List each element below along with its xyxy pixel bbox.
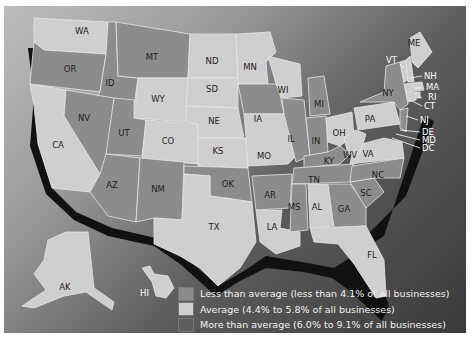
label-VT: VT xyxy=(386,55,398,65)
label-AK: AK xyxy=(59,282,71,292)
label-OK: OK xyxy=(222,179,235,189)
state-WA[interactable] xyxy=(34,18,108,54)
map-frame: WA OR CA ID NV MT WY UT CO AZ NM ND SD N… xyxy=(4,6,466,333)
label-NH: NH xyxy=(424,71,437,81)
label-VA: VA xyxy=(362,149,373,159)
label-GA: GA xyxy=(338,204,351,214)
legend-label-average: Average (4.4% to 5.8% of all businesses) xyxy=(200,304,395,315)
legend-label-less: Less than average (less than 4.1% of all… xyxy=(200,288,449,299)
label-WA: WA xyxy=(75,26,89,36)
label-MA: MA xyxy=(426,82,439,92)
state-NJ[interactable] xyxy=(400,108,408,132)
label-NM: NM xyxy=(151,184,165,194)
state-TN[interactable] xyxy=(292,164,354,184)
label-NC: NC xyxy=(372,170,384,180)
legend-item-more: More than average (6.0% to 9.1% of all b… xyxy=(178,317,449,333)
legend-swatch-average xyxy=(178,302,194,316)
label-ME: ME xyxy=(408,38,421,48)
label-NV: NV xyxy=(78,113,90,123)
legend-item-average: Average (4.4% to 5.8% of all businesses) xyxy=(178,302,449,318)
label-WI: WI xyxy=(278,85,289,95)
legend-swatch-less xyxy=(178,287,194,301)
label-ND: ND xyxy=(206,56,219,66)
label-SC: SC xyxy=(360,188,371,198)
label-MT: MT xyxy=(146,52,159,62)
label-OH: OH xyxy=(332,128,345,138)
label-FL: FL xyxy=(367,250,377,260)
label-PA: PA xyxy=(365,114,376,124)
label-IA: IA xyxy=(254,114,263,124)
label-MS: MS xyxy=(288,202,301,212)
label-CA: CA xyxy=(52,140,64,150)
label-WV: WV xyxy=(343,150,357,160)
label-TX: TX xyxy=(207,222,219,232)
legend-label-more: More than average (6.0% to 9.1% of all b… xyxy=(200,319,446,330)
label-MO: MO xyxy=(257,151,271,161)
label-DC: DC xyxy=(422,143,435,153)
label-KY: KY xyxy=(324,156,335,166)
state-PA[interactable] xyxy=(354,102,400,130)
label-IN: IN xyxy=(312,136,321,146)
label-AZ: AZ xyxy=(106,180,118,190)
label-TN: TN xyxy=(307,175,320,185)
label-CO: CO xyxy=(162,136,175,146)
legend-item-less: Less than average (less than 4.1% of all… xyxy=(178,286,449,302)
label-CT: CT xyxy=(424,101,436,111)
label-NJ: NJ xyxy=(420,115,429,125)
label-WY: WY xyxy=(151,94,165,104)
legend-swatch-more xyxy=(178,318,194,332)
label-MI: MI xyxy=(314,99,324,109)
label-SD: SD xyxy=(206,84,218,94)
label-KS: KS xyxy=(213,146,224,156)
label-IL: IL xyxy=(287,134,295,144)
label-OR: OR xyxy=(64,64,77,74)
label-UT: UT xyxy=(118,128,130,138)
state-NY[interactable] xyxy=(360,62,408,110)
label-MN: MN xyxy=(243,62,257,72)
label-AL: AL xyxy=(312,202,323,212)
state-MA[interactable] xyxy=(404,82,424,92)
label-LA: LA xyxy=(267,222,278,232)
state-MI[interactable] xyxy=(308,76,330,116)
label-AR: AR xyxy=(264,190,276,200)
us-map: WA OR CA ID NV MT WY UT CO AZ NM ND SD N… xyxy=(4,6,466,333)
label-HI: HI xyxy=(140,288,149,298)
label-NE: NE xyxy=(208,116,220,126)
label-NY: NY xyxy=(382,88,394,98)
label-ID: ID xyxy=(105,78,115,88)
state-AK[interactable] xyxy=(22,232,114,310)
state-MT[interactable] xyxy=(116,22,190,78)
legend: Less than average (less than 4.1% of all… xyxy=(178,286,449,333)
